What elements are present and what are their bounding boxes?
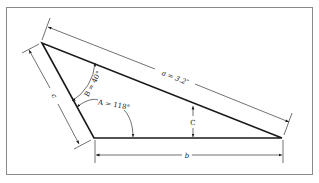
side-b-label: b bbox=[185, 152, 190, 160]
angle-C-label: C bbox=[190, 119, 195, 127]
figure-frame bbox=[7, 8, 313, 175]
triangle-diagram: a = 3.2″ c b B = 40° A = 118° C bbox=[0, 0, 319, 183]
